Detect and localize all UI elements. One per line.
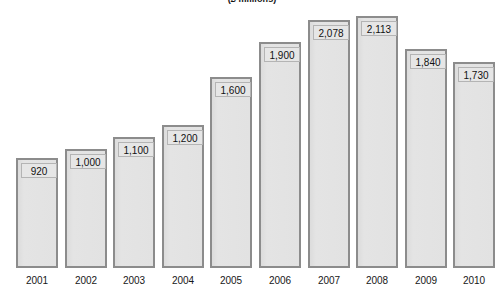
bar: 1,730: [453, 62, 495, 268]
bar-value-label: 1,730: [458, 67, 494, 82]
x-tick-label: 2009: [405, 274, 447, 288]
bar-value-label: 1,000: [70, 154, 106, 169]
bar-value-label: 2,078: [313, 25, 349, 40]
x-tick-label: 2002: [65, 274, 107, 288]
bar: 2,078: [308, 20, 350, 268]
x-tick-label: 2001: [16, 274, 58, 288]
bar: 1,600: [210, 77, 252, 268]
x-axis-line: [0, 268, 504, 269]
plot-area: 9201,0001,1001,2001,6001,9002,0782,1131,…: [0, 0, 504, 268]
x-tick-label: 2005: [210, 274, 252, 288]
x-tick-label: 2010: [453, 274, 495, 288]
bar: 1,200: [162, 125, 204, 268]
bar: 920: [16, 158, 58, 268]
bar-value-label: 1,100: [118, 142, 154, 157]
x-tick-label: 2008: [356, 274, 398, 288]
bar-value-label: 1,840: [410, 54, 446, 69]
bar-chart: (£ millions) 9201,0001,1001,2001,6001,90…: [0, 0, 504, 301]
bar-value-label: 920: [21, 163, 57, 178]
x-tick-label: 2007: [308, 274, 350, 288]
bar: 1,840: [405, 49, 447, 268]
bar: 1,000: [65, 149, 107, 268]
bar-value-label: 1,200: [167, 130, 203, 145]
bar: 2,113: [356, 16, 398, 268]
x-axis-labels: 2001200220032004200520062007200820092010: [0, 274, 504, 292]
x-tick-label: 2004: [162, 274, 204, 288]
bar: 1,900: [259, 42, 301, 268]
bar-value-label: 1,600: [215, 82, 251, 97]
bar-value-label: 2,113: [361, 21, 397, 36]
x-tick-label: 2006: [259, 274, 301, 288]
x-tick-label: 2003: [113, 274, 155, 288]
bar-value-label: 1,900: [264, 47, 300, 62]
bar: 1,100: [113, 137, 155, 268]
